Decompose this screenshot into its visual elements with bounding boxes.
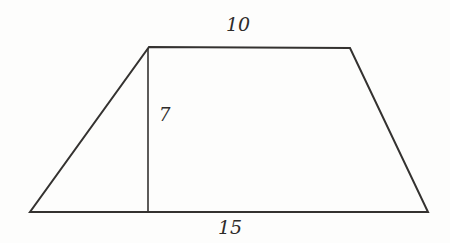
trapezoid-figure: 10 7 15: [0, 0, 450, 243]
top-base-label: 10: [226, 13, 250, 35]
bottom-base-label: 15: [218, 216, 242, 238]
height-label: 7: [159, 104, 171, 125]
geometry-diagram: 10 7 15: [0, 0, 450, 243]
trapezoid-outline: [30, 47, 428, 212]
